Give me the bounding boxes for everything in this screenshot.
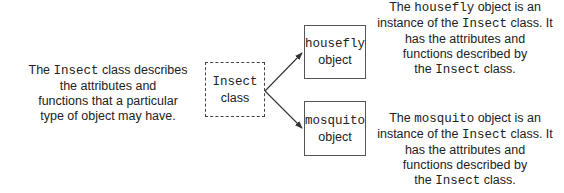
caption-text: object is an <box>474 111 541 125</box>
code-term: Insect <box>435 174 480 188</box>
caption-line: functions described by <box>370 158 560 173</box>
housefly-object-box: housefly object <box>304 25 366 79</box>
caption-text: The <box>389 0 414 14</box>
housefly-caption: The housefly object is an instance of th… <box>370 0 560 78</box>
caption-text: class. It <box>507 127 553 141</box>
caption-text: the <box>414 173 435 187</box>
object-label: object <box>318 129 351 145</box>
caption-text: object is an <box>474 0 541 14</box>
caption-text: instance of the <box>377 16 462 30</box>
object-name: mosquito <box>305 113 365 129</box>
arrow-to-housefly <box>265 53 302 91</box>
caption-line: has the attributes and <box>370 32 560 47</box>
code-term: Insect <box>462 128 507 142</box>
object-name: housefly <box>305 36 365 52</box>
code-term: housefly <box>414 1 474 15</box>
caption-text: class. <box>480 173 515 187</box>
caption-text: class. It <box>507 16 553 30</box>
caption-text: instance of the <box>377 127 462 141</box>
code-term: mosquito <box>414 112 474 126</box>
arrow-to-mosquito <box>265 91 302 128</box>
caption-text: the <box>414 62 435 76</box>
code-term: Insect <box>462 17 507 31</box>
caption-text: class. <box>480 62 515 76</box>
mosquito-object-box: mosquito object <box>304 101 366 156</box>
caption-line: functions described by <box>370 47 560 62</box>
caption-text: The <box>389 111 414 125</box>
caption-line: has the attributes and <box>370 143 560 158</box>
object-label: object <box>318 52 351 68</box>
code-term: Insect <box>435 63 480 77</box>
mosquito-caption: The mosquito object is an instance of th… <box>370 111 560 189</box>
